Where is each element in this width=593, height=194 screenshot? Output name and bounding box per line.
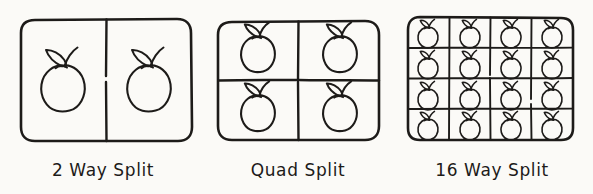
- apple-icon: [241, 22, 275, 72]
- cell-16-11[interactable]: [501, 81, 521, 110]
- cell-16-10[interactable]: [460, 81, 480, 110]
- divider-vertical-16-2a: [490, 18, 491, 76]
- caption-sixteen-way: 16 Way Split: [435, 160, 549, 180]
- apple-icon: [542, 19, 562, 48]
- cell-16-8[interactable]: [542, 50, 562, 79]
- apple-icon: [418, 81, 438, 110]
- apple-icon: [323, 81, 357, 131]
- apple-icon: [323, 22, 357, 72]
- apple-icon: [127, 48, 171, 112]
- caption-quad: Quad Split: [251, 160, 345, 180]
- panel-two-way[interactable]: [21, 19, 192, 141]
- cell-16-7[interactable]: [501, 50, 521, 79]
- apple-icon: [460, 81, 480, 110]
- divider-vertical-2: [106, 82, 107, 141]
- apple-icon: [418, 50, 438, 79]
- divider-vertical-1: [106, 20, 107, 77]
- cell-16-3[interactable]: [501, 19, 521, 48]
- cell-16-6[interactable]: [460, 50, 480, 79]
- cell-quad-1[interactable]: [241, 22, 275, 72]
- divider-vertical-quad-top: [298, 22, 299, 81]
- cell-quad-4[interactable]: [323, 81, 357, 131]
- cell-16-1[interactable]: [418, 19, 438, 48]
- apple-icon: [418, 111, 438, 140]
- diagram-canvas: 2 Way Split Quad Split: [0, 0, 593, 194]
- caption-two-way: 2 Way Split: [52, 160, 154, 180]
- cell-two-way-2[interactable]: [127, 48, 171, 112]
- cell-quad-2[interactable]: [323, 22, 357, 72]
- apple-icon: [460, 50, 480, 79]
- cell-16-15[interactable]: [501, 111, 521, 140]
- cell-16-12[interactable]: [542, 81, 562, 110]
- cell-16-16[interactable]: [542, 111, 562, 140]
- apple-icon: [542, 81, 562, 110]
- apple-icon: [542, 111, 562, 140]
- cell-quad-3[interactable]: [241, 81, 275, 131]
- apple-icon: [501, 111, 521, 140]
- apple-icon: [501, 81, 521, 110]
- split-layout-diagram: 2 Way Split Quad Split: [0, 0, 593, 194]
- cell-16-13[interactable]: [418, 111, 438, 140]
- apple-icon: [542, 50, 562, 79]
- cell-16-2[interactable]: [460, 19, 480, 48]
- cell-16-5[interactable]: [418, 50, 438, 79]
- cell-two-way-1[interactable]: [41, 48, 85, 112]
- divider-horizontal-quad-right: [298, 80, 379, 81]
- divider-horizontal-quad-left: [219, 80, 299, 81]
- cell-16-14[interactable]: [460, 111, 480, 140]
- apple-icon: [460, 19, 480, 48]
- apple-icon: [241, 81, 275, 131]
- apple-icon: [418, 19, 438, 48]
- divider-vertical-16-3a: [531, 18, 532, 99]
- panel-quad[interactable]: [218, 21, 379, 140]
- panel-sixteen-way[interactable]: [408, 17, 573, 140]
- cell-16-4[interactable]: [542, 19, 562, 48]
- divider-vertical-quad-bottom: [298, 82, 299, 140]
- apple-icon: [501, 50, 521, 79]
- apple-icon: [460, 111, 480, 140]
- apple-icon: [41, 48, 85, 112]
- cell-16-9[interactable]: [418, 81, 438, 110]
- apple-icon: [501, 19, 521, 48]
